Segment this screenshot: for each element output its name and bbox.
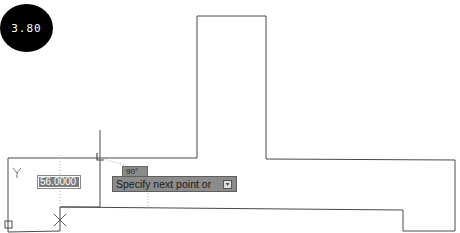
dynamic-input-field[interactable]: 56.0000 [37,175,81,189]
tracking-line [100,158,125,165]
command-prompt-text: Specify next point or [116,178,223,190]
command-prompt-tooltip: Specify next point or ▾ [112,176,237,192]
ucs-icon [5,168,21,228]
down-arrow-icon[interactable]: ▾ [223,180,232,189]
polyline-outline [8,16,455,232]
step-badge-label: 3.80 [11,22,42,35]
drawing-canvas[interactable] [0,0,460,233]
dynamic-input-value: 56.0000 [39,177,79,187]
step-badge: 3.80 [0,4,53,52]
polar-angle-value: 90° [126,167,138,176]
